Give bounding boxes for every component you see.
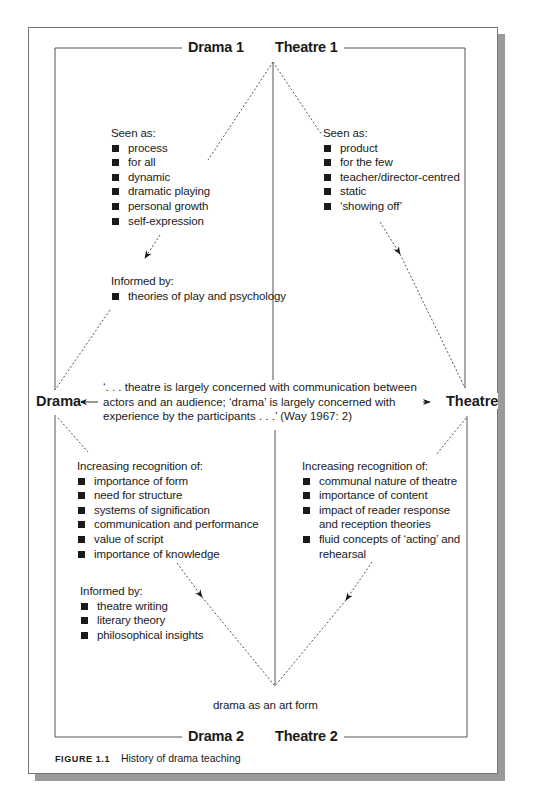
label-theatre-2: Theatre 2 <box>269 728 344 744</box>
quote-line-2: actors and an audience; ‘drama’ is large… <box>103 395 423 410</box>
drama2-informed-by-list: theatre writing literary theory philosop… <box>80 599 203 643</box>
drama1-informed-by-heading: Informed by: <box>111 274 286 289</box>
list-item: systems of signification <box>77 503 259 518</box>
list-item: theories of play and psychology <box>111 289 286 304</box>
theatre2-recognition-block: Increasing recognition of: communal natu… <box>302 459 462 561</box>
drama1-informed-by-block: Informed by: theories of play and psycho… <box>111 274 286 303</box>
label-theatre: Theatre <box>446 393 498 409</box>
list-item: philosophical insights <box>80 628 203 643</box>
drama2-informed-by-block: Informed by: theatre writing literary th… <box>80 584 203 642</box>
list-item: for the few <box>323 155 460 170</box>
label-drama-1: Drama 1 <box>182 39 250 55</box>
list-item: importance of form <box>77 474 259 489</box>
theatre1-seen-as-block: Seen as: product for the few teacher/dir… <box>323 126 460 214</box>
quote-line-1: ‘. . . theatre is largely concerned with… <box>103 380 423 395</box>
label-drama: Drama <box>36 393 81 409</box>
theatre2-recognition-heading: Increasing recognition of: <box>302 459 462 474</box>
list-item: communication and performance <box>77 517 259 532</box>
drama1-seen-as-list: process for all dynamic dramatic playing… <box>111 141 210 229</box>
list-item: process <box>111 141 210 156</box>
way-quote: ‘. . . theatre is largely concerned with… <box>103 380 423 424</box>
drama2-informed-by-heading: Informed by: <box>80 584 203 599</box>
list-item: value of script <box>77 532 259 547</box>
list-item: impact of reader response and reception … <box>302 503 462 532</box>
list-item: theatre writing <box>80 599 203 614</box>
list-item: fluid concepts of ‘acting’ and rehearsal <box>302 532 462 561</box>
list-item: communal nature of theatre <box>302 474 462 489</box>
drama-as-art-form-label: drama as an art form <box>213 698 318 713</box>
drama2-recognition-heading: Increasing recognition of: <box>77 459 259 474</box>
list-item: personal growth <box>111 199 210 214</box>
figure-title: History of drama teaching <box>121 752 241 764</box>
label-theatre-1: Theatre 1 <box>269 39 344 55</box>
list-item: for all <box>111 155 210 170</box>
theatre1-seen-as-heading: Seen as: <box>323 126 460 141</box>
list-item: need for structure <box>77 488 259 503</box>
drama1-informed-by-list: theories of play and psychology <box>111 289 286 304</box>
list-item: literary theory <box>80 613 203 628</box>
list-item: dynamic <box>111 170 210 185</box>
drama1-seen-as-heading: Seen as: <box>111 126 210 141</box>
figure-caption: FIGURE 1.1 History of drama teaching <box>55 752 241 764</box>
list-item: importance of knowledge <box>77 547 259 562</box>
theatre2-recognition-list: communal nature of theatre importance of… <box>302 474 462 562</box>
quote-line-3: experience by the participants . . .’ (W… <box>103 409 423 424</box>
list-item: dramatic playing <box>111 184 210 199</box>
figure-label: FIGURE 1.1 <box>55 754 110 764</box>
list-item: teacher/director-centred <box>323 170 460 185</box>
label-drama-2: Drama 2 <box>182 728 250 744</box>
list-item: static <box>323 184 460 199</box>
drama2-recognition-block: Increasing recognition of: importance of… <box>77 459 259 561</box>
drama2-recognition-list: importance of form need for structure sy… <box>77 474 259 562</box>
drama1-seen-as-block: Seen as: process for all dynamic dramati… <box>111 126 210 228</box>
list-item: self-expression <box>111 214 210 229</box>
theatre1-seen-as-list: product for the few teacher/director-cen… <box>323 141 460 214</box>
list-item: importance of content <box>302 488 462 503</box>
list-item: product <box>323 141 460 156</box>
list-item: ‘showing off’ <box>323 199 460 214</box>
